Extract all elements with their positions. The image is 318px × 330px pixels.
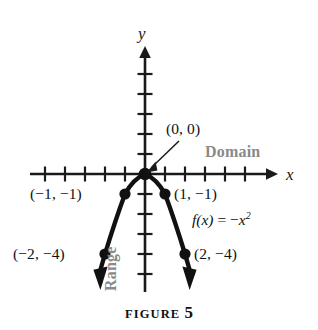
figure-caption-word: FIGURE: [125, 307, 180, 321]
range-label: Range: [103, 246, 119, 291]
x-axis-arrowhead: [266, 168, 278, 180]
data-point-neg1: [119, 188, 130, 199]
data-point-pos1: [159, 188, 170, 199]
function-formula-label: f(x) = −x2: [192, 212, 251, 228]
formula-equals: =: [217, 211, 226, 228]
figure-caption: FIGURE 5: [0, 303, 318, 323]
origin-point-label: (0, 0): [166, 121, 200, 137]
formula-exponent: 2: [246, 210, 251, 221]
formula-fn: f(x): [192, 211, 214, 228]
origin-callout-arrow-line: [152, 141, 179, 167]
figure-caption-number: 5: [184, 303, 193, 322]
origin-callout-arrowhead: [147, 162, 158, 173]
figure-container: y x Domain Range (0, 0) (−1, −1) (1, −1)…: [0, 0, 318, 330]
formula-variable: x: [239, 211, 246, 228]
point-label-neg2: (−2, −4): [13, 246, 65, 262]
point-label-pos2: (2, −4): [194, 246, 237, 262]
domain-label: Domain: [205, 144, 260, 160]
data-point-pos2: [179, 248, 190, 259]
y-axis-label: y: [138, 25, 146, 42]
y-axis-arrowhead: [139, 46, 151, 58]
graph-canvas: [0, 0, 318, 330]
curve-arrowhead-right: [182, 266, 196, 290]
point-label-pos1: (1, −1): [174, 186, 217, 202]
x-axis-label: x: [286, 166, 294, 183]
point-label-neg1: (−1, −1): [30, 186, 82, 202]
formula-minus: −: [230, 211, 239, 228]
